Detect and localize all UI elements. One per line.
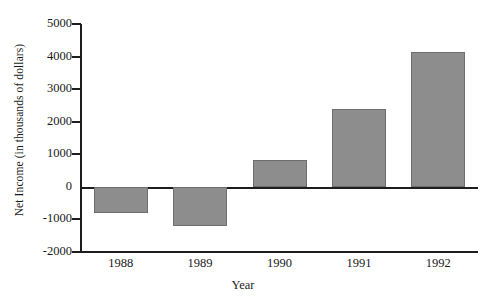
y-axis-tick-label: -1000 xyxy=(18,212,72,225)
y-axis-tick-label-wrap: -1000 xyxy=(0,212,72,225)
x-axis-tick-label: 1992 xyxy=(403,256,473,270)
x-axis-tick-label: 1991 xyxy=(324,256,394,270)
y-axis-tick-label-wrap: 5000 xyxy=(0,17,72,30)
x-axis-line xyxy=(80,251,478,253)
x-axis-tick-label: 1990 xyxy=(245,256,315,270)
bar xyxy=(332,109,386,187)
bar xyxy=(173,187,227,226)
y-axis-tick-label-wrap: 1000 xyxy=(0,147,72,160)
x-axis-tick-label: 1989 xyxy=(165,256,235,270)
x-axis-tick-label: 1988 xyxy=(86,256,156,270)
y-axis-tick-label: 1000 xyxy=(18,147,72,160)
y-axis-tick-label: 3000 xyxy=(18,82,72,95)
bar xyxy=(253,160,307,187)
bar xyxy=(411,52,465,187)
y-axis-tick-label-wrap: 3000 xyxy=(0,82,72,95)
bar xyxy=(94,187,148,213)
y-axis-tick-label-wrap: 0 xyxy=(0,180,72,193)
y-axis-tick xyxy=(72,218,81,220)
y-axis-tick-label: -2000 xyxy=(18,245,72,258)
y-axis-tick-label: 2000 xyxy=(18,115,72,128)
y-axis-tick-label: 5000 xyxy=(18,17,72,30)
y-axis-tick-label: 0 xyxy=(18,180,72,193)
y-axis-tick-label-wrap: -2000 xyxy=(0,245,72,258)
y-axis-tick-label: 4000 xyxy=(18,50,72,63)
y-axis-tick-label-wrap: 2000 xyxy=(0,115,72,128)
bar-chart: Net Income (in thousands of dollars) 500… xyxy=(0,0,486,306)
y-axis-tick xyxy=(72,56,81,58)
y-axis-tick xyxy=(72,121,81,123)
y-axis-tick xyxy=(72,23,81,25)
y-axis-tick xyxy=(72,251,81,253)
x-axis-title: Year xyxy=(0,278,486,292)
y-axis-tick xyxy=(72,88,81,90)
y-axis-tick xyxy=(72,153,81,155)
y-axis-tick-label-wrap: 4000 xyxy=(0,50,72,63)
